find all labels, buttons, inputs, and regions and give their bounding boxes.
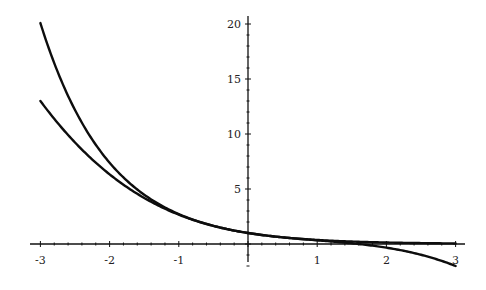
x-tick-label: -3 (35, 254, 46, 267)
x-tick-label: -2 (104, 254, 115, 267)
chart: -3-2-1123 5101520 (0, 0, 486, 290)
x-tick-label: -1 (173, 254, 184, 267)
y-tick-label: 20 (227, 18, 241, 31)
x-ticks: -3-2-1123 (35, 241, 459, 267)
y-tick-label: 15 (227, 73, 241, 86)
y-tick-label: 10 (227, 128, 241, 141)
x-tick-label: 1 (314, 254, 321, 267)
axes: -3-2-1123 5101520 (30, 16, 465, 267)
x-tick-label: 2 (383, 254, 390, 267)
y-tick-label: 5 (234, 183, 241, 196)
